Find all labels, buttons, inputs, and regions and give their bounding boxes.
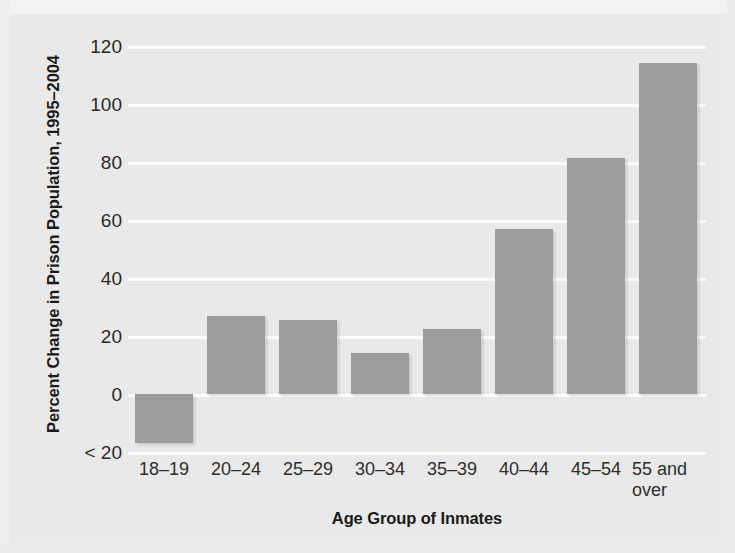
bar-18-19[interactable] — [135, 394, 193, 443]
y-tick-40: 40 — [60, 269, 122, 288]
y-tick-100: 100 — [60, 95, 122, 114]
x-tick-40-44: 40–44 — [488, 459, 560, 480]
y-tick-120: 120 — [60, 37, 122, 56]
y-tick-minus-20: < 20 — [60, 443, 122, 462]
bar-25-29[interactable] — [279, 320, 337, 394]
x-tick-25-29: 25–29 — [272, 459, 344, 480]
bar-55-and-over[interactable] — [639, 63, 697, 394]
y-tick-0: 0 — [60, 385, 122, 404]
x-tick-20-24: 20–24 — [200, 459, 272, 480]
paper-edge-right — [727, 0, 735, 553]
x-tick-18-19: 18–19 — [128, 459, 200, 480]
gridline-100 — [128, 104, 706, 107]
y-tick-60: 60 — [60, 211, 122, 230]
bar-20-24[interactable] — [207, 316, 265, 394]
paper-edge-left — [0, 0, 10, 553]
chart-figure: Percent Change in Prison Population, 199… — [0, 0, 735, 553]
x-tick-55-and-over-line1: 55 and — [632, 459, 710, 480]
gridline-0 — [128, 394, 706, 397]
bar-35-39[interactable] — [423, 329, 481, 394]
gridline-minus-20 — [128, 452, 706, 455]
bar-45-54[interactable] — [567, 158, 625, 394]
y-tick-20: 20 — [60, 327, 122, 346]
y-tick-80: 80 — [60, 153, 122, 172]
bar-30-34[interactable] — [351, 353, 409, 394]
plot-area — [128, 46, 706, 452]
y-axis-tick-labels: 120 100 80 60 40 20 0 < 20 — [56, 0, 122, 553]
x-tick-30-34: 30–34 — [344, 459, 416, 480]
x-tick-55-and-over-line2: over — [632, 480, 710, 501]
bar-40-44[interactable] — [495, 229, 553, 394]
x-axis-title: Age Group of Inmates — [128, 509, 706, 528]
x-tick-35-39: 35–39 — [416, 459, 488, 480]
x-tick-55-and-over: 55 and over — [632, 459, 710, 501]
x-tick-45-54: 45–54 — [560, 459, 632, 480]
gridline-120 — [128, 46, 706, 49]
